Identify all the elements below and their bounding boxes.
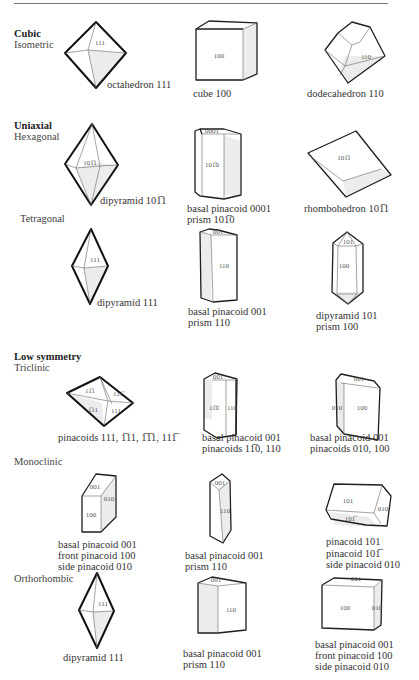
monoclinic-tablet-drawing: 101 010 101̅ <box>326 484 391 527</box>
face-label: 001 <box>215 479 226 487</box>
section-title-low-symmetry: Low symmetry <box>14 351 81 362</box>
face-label: 101̅0 <box>205 161 220 169</box>
caption-monoclinic-block-3: side pinacoid 010 <box>58 561 132 572</box>
section-title-uniaxial: Uniaxial <box>14 120 52 131</box>
subtitle-tetragonal: Tetragonal <box>20 213 65 224</box>
subtitle-monoclinic: Monoclinic <box>14 456 62 467</box>
face-label: 110 <box>220 507 231 515</box>
subtitle-hexagonal: Hexagonal <box>14 131 59 142</box>
face-label: 1̅11 <box>88 406 98 414</box>
face-label: 101 <box>343 497 354 505</box>
face-label: 111 <box>90 256 100 264</box>
caption-tet-dipyramid-prism-1: dipyramid 101 <box>316 310 378 321</box>
caption-triclinic-block-1: basal pinacoid 001 <box>310 432 389 443</box>
face-label: 110 <box>226 606 237 614</box>
monoclinic-prism-drawing: 001 110 <box>210 474 231 543</box>
tet-dipyramid-drawing: 111 <box>72 229 108 304</box>
face-label: 101̅1 <box>337 154 351 162</box>
face-label: 100 <box>339 262 350 270</box>
caption-tet-dipyramid: dipyramid 111 <box>97 297 158 308</box>
caption-triclinic-block-2: pinacoids 010, 100 <box>310 443 390 454</box>
face-label: 11̅0 <box>209 404 220 412</box>
face-label: 101 <box>343 238 354 246</box>
face-label: 010 <box>378 505 389 513</box>
face-label: 010 <box>372 604 383 612</box>
caption-tet-prism-1: basal pinacoid 001 <box>188 306 267 317</box>
ortho-block-drawing: 001 100 010 <box>322 575 383 630</box>
subtitle-orthorhombic: Orthorhombic <box>14 573 74 584</box>
face-label: 010 <box>332 404 343 412</box>
face-label: 001 <box>213 228 224 236</box>
rhombohedron-drawing: 101̅1 <box>308 131 391 197</box>
caption-ortho-block-3: side pinacoid 010 <box>315 661 389 672</box>
face-label: 111 <box>111 407 121 415</box>
caption-dodecahedron: dodecahedron 110 <box>307 88 384 99</box>
caption-monoclinic-prism-2: prism 110 <box>185 561 227 572</box>
face-label: 001 <box>211 576 222 584</box>
monoclinic-block-drawing: 001 010 100 <box>82 474 116 532</box>
caption-ortho-dipyramid: dipyramid 111 <box>63 652 124 663</box>
caption-monoclinic-prism-1: basal pinacoid 001 <box>185 550 264 561</box>
caption-triclinic-pinacoids: pinacoids 111, 1̅11, 1̅1̅1, 111̅ <box>58 432 177 443</box>
caption-ortho-block-1: basal pinacoid 001 <box>315 639 394 650</box>
face-label: 100 <box>86 511 97 519</box>
caption-hex-prism-1: basal pinacoid 0001 <box>187 203 271 214</box>
face-label: 110 <box>361 53 372 61</box>
caption-hex-prism-2: prism 101̅0 <box>187 214 235 225</box>
cube-drawing: 100 <box>196 21 257 80</box>
caption-ortho-block-2: front pinacoid 100 <box>315 650 393 661</box>
caption-monoclinic-block-2: front pinacoid 100 <box>58 550 136 561</box>
face-label: 111 <box>98 600 108 608</box>
face-label: 100 <box>340 604 351 612</box>
face-label: 110 <box>219 262 230 270</box>
face-label: 001 <box>213 373 224 381</box>
hex-prism-drawing: 0001 101̅0 <box>195 127 241 199</box>
triclinic-pinacoids-drawing: 11̅1 111̅ 1̅11 111 <box>67 377 133 426</box>
face-label: 101̅1 <box>83 159 97 167</box>
caption-tet-dipyramid-prism-2: prism 100 <box>316 321 358 332</box>
caption-monoclinic-tablet-3: side pinacoid 010 <box>326 559 400 570</box>
face-label: 100 <box>357 404 368 412</box>
face-label: 001 <box>90 483 101 491</box>
caption-rhombohedron: rhombohedron 101̅1 <box>304 203 389 214</box>
caption-triclinic-prism-2: pinacoids 11̅0, 110 <box>202 443 281 454</box>
caption-tet-prism-2: prism 110 <box>188 317 230 328</box>
ortho-dipyramid-drawing: 111 <box>79 573 114 648</box>
caption-monoclinic-tablet-2: pinacoid 101̅ <box>326 548 381 559</box>
caption-monoclinic-block-1: basal pinacoid 001 <box>58 539 137 550</box>
face-label: 111 <box>95 39 105 47</box>
caption-cube: cube 100 <box>193 88 231 99</box>
caption-triclinic-prism-1: basal pinacoid 001 <box>202 432 281 443</box>
face-label: 100 <box>214 52 225 60</box>
caption-ortho-prism-2: prism 110 <box>183 659 225 670</box>
section-title-cubic: Cubic <box>14 28 41 39</box>
subtitle-isometric: Isometric <box>14 39 54 50</box>
face-label: 11̅1 <box>85 387 95 395</box>
triclinic-block-drawing: 001 010 100 <box>332 374 380 440</box>
triclinic-prism-drawing: 001 11̅0 110 <box>204 373 238 438</box>
face-label: 001 <box>351 575 362 583</box>
face-label: 110 <box>227 404 238 412</box>
ortho-prism-drawing: 001 110 <box>198 576 246 633</box>
face-label: 0001 <box>205 127 220 135</box>
subtitle-triclinic: Triclinic <box>14 362 50 373</box>
caption-hex-dipyramid: dipyramid 101̅1 <box>100 195 166 206</box>
caption-monoclinic-tablet-1: pinacoid 101 <box>326 536 381 547</box>
tet-prism-dipyramid-drawing: 101 100 <box>332 232 363 304</box>
dodecahedron-drawing: 110 <box>325 22 385 83</box>
caption-octahedron: octahedron 111 <box>107 79 171 90</box>
face-label: 001 <box>354 375 365 383</box>
caption-ortho-prism-1: basal pinacoid 001 <box>183 648 262 659</box>
hex-dipyramid-drawing: 101̅1 <box>65 124 118 205</box>
tet-prism-drawing: 001 110 <box>200 228 237 302</box>
face-label: 010 <box>104 495 115 503</box>
